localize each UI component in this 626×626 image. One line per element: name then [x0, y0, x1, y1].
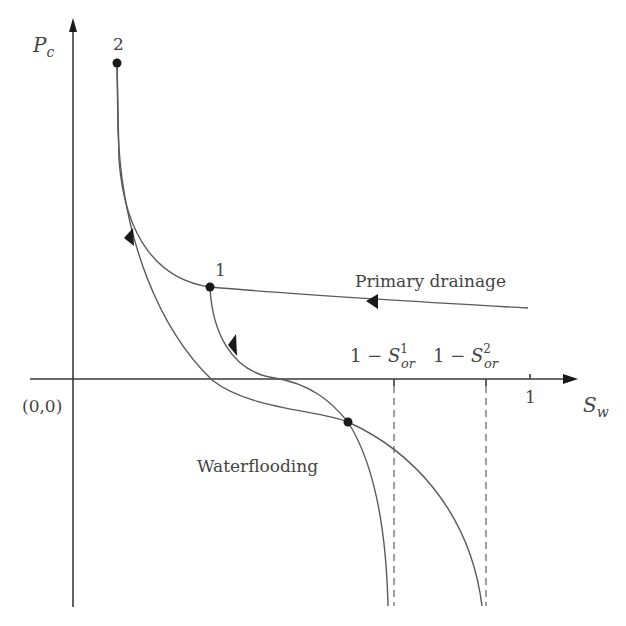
origin-label: (0,0): [22, 396, 62, 416]
point-1-label: 1: [215, 260, 226, 280]
intersection-point: [344, 418, 353, 427]
x-tick-one-label: 1: [525, 387, 536, 407]
residual-label-2: 1 − S2or: [433, 342, 499, 371]
waterflooding-label: Waterflooding: [197, 456, 318, 476]
y-axis-label: Pc: [32, 33, 54, 60]
x-axis-arrow-icon: [563, 374, 578, 384]
point-2-label: 2: [113, 34, 124, 54]
waterflooding-curve-from-2: [117, 63, 482, 606]
point-1: [206, 283, 215, 292]
y-axis-arrow-icon: [69, 18, 77, 32]
scanning-down-arrow-icon: [228, 334, 237, 356]
point-2: [113, 59, 122, 68]
capillary-pressure-diagram: Pc Sw (0,0) 1 2 1 Primary drainage Water…: [0, 0, 626, 626]
primary-drainage-direction-icon: [366, 294, 378, 309]
x-axis-label: Sw: [583, 393, 609, 420]
primary-drainage-label: Primary drainage: [355, 271, 506, 291]
waterflooding-curve-from-1: [210, 287, 388, 606]
residual-label-1: 1 − S1or: [350, 342, 416, 371]
drainage-left-arrow-icon: [124, 228, 134, 246]
